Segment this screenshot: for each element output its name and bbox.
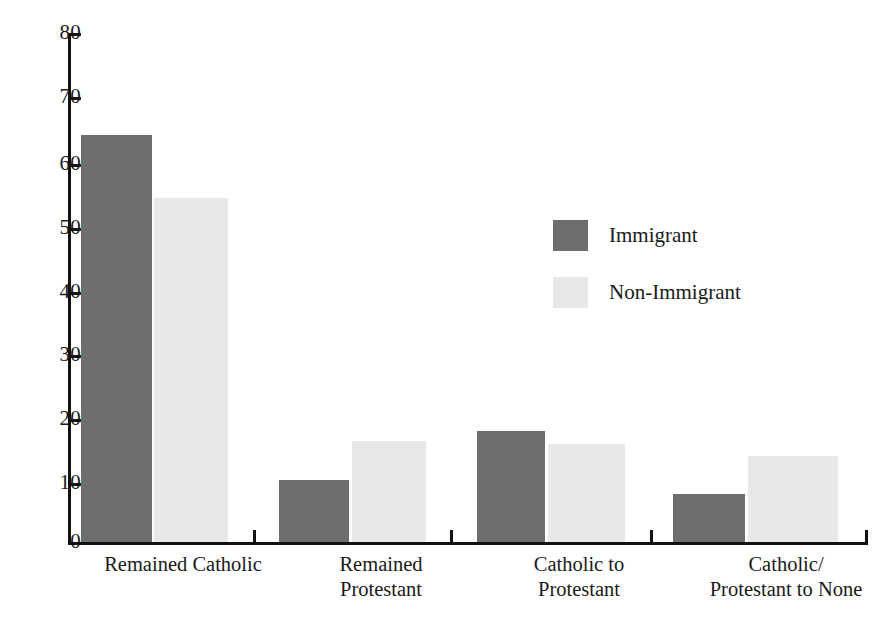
x-tick-mark-4 [865,530,868,542]
y-tick-mark-70 [68,97,81,100]
bar-remained-catholic-non-immigrant[interactable] [154,198,228,542]
bar-catholic-protestant-to-none-immigrant[interactable] [673,494,745,542]
legend-item-immigrant[interactable]: Immigrant [553,217,741,253]
bar-remained-catholic-immigrant[interactable] [81,135,152,542]
x-axis-line [68,542,868,545]
x-tick-mark-1 [253,530,256,542]
legend-item-non-immigrant[interactable]: Non-Immigrant [553,274,741,310]
legend-label-immigrant: Immigrant [609,225,698,246]
bar-remained-protestant-immigrant[interactable] [279,480,349,542]
bar-remained-protestant-non-immigrant[interactable] [352,441,426,542]
y-tick-mark-80 [68,33,81,36]
y-tick-mark-40 [68,292,81,295]
y-tick-mark-30 [68,355,81,358]
y-tick-mark-50 [68,228,81,231]
x-tick-mark-3 [650,530,653,542]
bar-chart: 80 70 60 50 40 30 20 10 0 Rem [0,0,876,635]
y-tick-mark-20 [68,419,81,422]
y-tick-mark-60 [68,164,81,167]
bar-catholic-to-protestant-immigrant[interactable] [477,431,545,542]
legend-swatch-non-immigrant-icon [553,277,588,308]
legend-swatch-immigrant-icon [553,220,588,251]
x-tick-mark-2 [450,530,453,542]
x-category-label-4: Catholic/ Protestant to None [646,552,876,602]
legend-label-non-immigrant: Non-Immigrant [609,282,741,303]
bar-catholic-protestant-to-none-non-immigrant[interactable] [748,456,838,542]
legend: Immigrant Non-Immigrant [553,217,741,331]
bar-catholic-to-protestant-non-immigrant[interactable] [548,444,625,542]
y-tick-mark-10 [68,483,81,486]
